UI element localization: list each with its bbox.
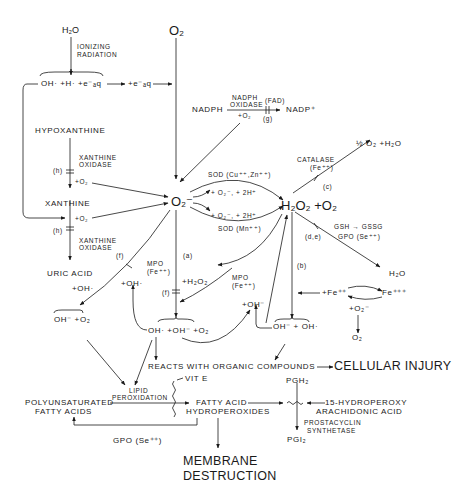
prostacyclin-2: SYNTHETASE: [307, 428, 356, 435]
nadp-plus: NADP⁺: [286, 106, 315, 114]
plus-superoxide: +O₂⁻: [349, 305, 369, 313]
superoxide: O₂⁻: [171, 195, 193, 208]
ferric-iron: Fe⁺⁺⁺: [382, 289, 406, 297]
ionizing-label: IONIZING: [77, 44, 111, 51]
gpo-se-bottom: GPO (Se⁺⁺): [113, 437, 162, 445]
nadph-label: NADPH: [192, 106, 223, 114]
sod-cuzn: SOD (Cu⁺⁺,Zn⁺⁺): [208, 172, 271, 179]
dismutation-1: + O₂⁻, + 2H⁺: [211, 190, 257, 197]
water-top: H₂O: [62, 26, 79, 35]
xanthine-oxidase-1b: OXIDASE: [79, 162, 112, 169]
sod-mn: SOD (Mn⁺⁺): [218, 226, 261, 233]
gpo-se-top: GPO (Se⁺⁺): [338, 234, 381, 241]
f-label-1: (f): [116, 253, 124, 260]
nadph-oxidase-2: OXIDASE: [230, 102, 263, 109]
mpo-1: MPO: [147, 261, 164, 268]
plus-o2-nadph: +O₂: [238, 113, 251, 120]
hpeta-2: ARACHIDONIC ACID: [316, 408, 403, 416]
pufa-2: FATTY ACIDS: [35, 408, 92, 416]
prostacyclin-1: PROSTACYCLIN: [304, 420, 361, 427]
plus-o2-x2: +O₂: [75, 216, 88, 223]
oxygen-top: O₂: [169, 24, 184, 37]
dismutation-2: + O₂⁻, + 2H⁺: [211, 213, 257, 220]
radiolysis-products: OH· +H· +e⁻ₐq: [41, 80, 102, 88]
mpo-2: MPO: [232, 275, 249, 282]
fa-hydroperoxides-1: FATTY ACID: [196, 399, 247, 407]
fa-hydroperoxides-2: HYDROPEROXIDES: [186, 408, 270, 416]
catalase-products: ½ O₂ +H₂O: [356, 140, 402, 148]
plus-hydroxide: +OH⁻: [242, 301, 265, 309]
cellular-injury: CELLULAR INJURY: [334, 360, 452, 373]
xanthine: XANTHINE: [45, 200, 90, 208]
h-label-1: (h): [53, 168, 63, 175]
catalase: CATALASE: [297, 157, 335, 164]
gsh-gssg: GSH → GSSG: [334, 224, 383, 231]
pgh2: PGH₂: [286, 377, 309, 385]
membrane-label: MEMBRANE: [183, 455, 258, 468]
xanthine-oxidase-2b: OXIDASE: [79, 245, 112, 252]
c-label: (c): [323, 184, 332, 191]
a-label: (a): [183, 253, 193, 260]
fad-label: (FAD): [265, 98, 285, 105]
hydroxyl-products: OH· +OH⁻ +O₂: [148, 327, 209, 335]
plus-o2-x1: +O₂: [75, 179, 88, 186]
hydrated-electron: +e⁻ₐq: [128, 80, 152, 88]
plus-h2o2: +H₂O₂: [182, 278, 208, 286]
mpo-fe-1: (Fe⁺⁺): [147, 269, 171, 276]
destruction-label: DESTRUCTION: [183, 470, 277, 483]
hydrogen-peroxide: H₂O₂ +O₂: [281, 199, 337, 212]
pgi2: PGI₂: [287, 436, 306, 444]
de-label: (d,e): [305, 234, 321, 241]
peroxidation-label: PEROXIDATION: [112, 395, 168, 402]
plus-oh-left: +OH·: [72, 285, 94, 293]
ferrous-iron: +Fe⁺⁺: [322, 289, 347, 297]
pufa-1: POLYUNSATURATED: [25, 399, 114, 407]
oxygen-bottom: O₂: [352, 334, 363, 342]
hydroxide-hydroxyl: OH⁻ + OH·: [273, 323, 318, 331]
catalase-fe: (Fe⁺⁺): [310, 165, 334, 172]
g-label: (g): [263, 116, 273, 123]
f-label-2: (f): [162, 290, 170, 297]
mpo-fe-2: (Fe⁺⁺): [232, 283, 256, 290]
hydroxide-oxygen: OH⁻ +O₂: [54, 316, 90, 324]
hpeta-1: 15-HYDROPEROXY: [325, 399, 407, 407]
radiation-label: RADIATION: [77, 52, 117, 59]
h-label-2: (h): [53, 228, 63, 235]
vitamin-e: VIT E: [185, 375, 208, 383]
uric-acid: URIC ACID: [47, 270, 93, 278]
plus-oh-mid: +OH·: [121, 280, 143, 288]
hypoxanthine: HYPOXANTHINE: [35, 127, 105, 135]
water-right: H₂O: [389, 270, 406, 278]
reacts-organic: REACTS WITH ORGANIC COMPOUNDS: [148, 363, 315, 371]
b-label: (b): [297, 263, 307, 270]
